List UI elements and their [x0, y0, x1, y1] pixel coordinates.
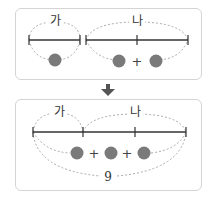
plus-top: +: [132, 54, 143, 69]
plus-bottom-1: +: [89, 146, 100, 161]
circle-na-1: [113, 55, 126, 68]
label-na-bottom: 나: [130, 105, 141, 119]
circle-na-2: [150, 55, 163, 68]
label-ga-top: 가: [50, 14, 61, 28]
plus-bottom-2: +: [122, 146, 133, 161]
arc-sum-right: [151, 132, 186, 153]
circle-3: [138, 147, 151, 160]
down-arrow-icon: [101, 84, 115, 96]
label-ga-bottom: 가: [54, 105, 65, 119]
circle-ga: [49, 54, 62, 67]
circle-2: [105, 147, 118, 160]
total-label: 9: [104, 170, 112, 184]
arc-sum-left: [33, 132, 70, 153]
circle-1: [71, 147, 84, 160]
diagram-canvas: 가 나 + 가 나 + + 9: [0, 0, 217, 204]
label-na-top: 나: [132, 14, 143, 28]
